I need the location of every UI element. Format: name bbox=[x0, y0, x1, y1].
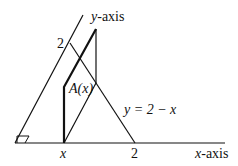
y-axis-label: y-axis bbox=[91, 10, 124, 24]
x-tick-x-label: x bbox=[60, 147, 66, 161]
y-axis-line bbox=[15, 15, 83, 143]
y-tick-2-label: 2 bbox=[57, 37, 64, 51]
diagram-canvas bbox=[0, 0, 238, 166]
x-tick-2-label: 2 bbox=[131, 147, 138, 161]
line-equation-label: y = 2 − x bbox=[124, 103, 176, 117]
area-label: A(x) bbox=[69, 82, 93, 96]
x-axis-label: x-axis bbox=[195, 147, 228, 161]
